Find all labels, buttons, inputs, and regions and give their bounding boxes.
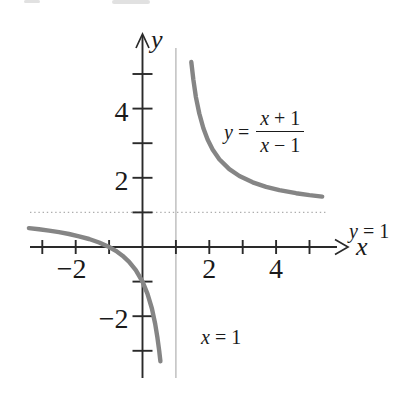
figure: −224−224 y x y = x + 1 x − 1 y = 1 x = 1	[0, 0, 395, 398]
curve-equation-label: y = x + 1 x − 1	[224, 108, 304, 155]
equation-lhs: y =	[224, 122, 254, 142]
y-tick-label: 4	[115, 96, 129, 127]
vertical-asymptote-label: x = 1	[181, 307, 241, 367]
function-curve-left-branch	[29, 228, 161, 361]
x-tick-label: 4	[269, 253, 283, 284]
x-tick-label: 2	[202, 253, 216, 284]
equation-fraction: x + 1 x − 1	[256, 108, 304, 155]
y-axis-label: y	[151, 27, 163, 53]
horizontal-asymptote-label: y = 1	[329, 201, 389, 261]
y-tick-label: −2	[99, 303, 129, 334]
y-tick-label: 2	[115, 165, 129, 196]
x-tick-label: −2	[57, 253, 87, 284]
equation-numerator: x + 1	[256, 108, 304, 132]
equation-denominator: x − 1	[256, 132, 304, 155]
